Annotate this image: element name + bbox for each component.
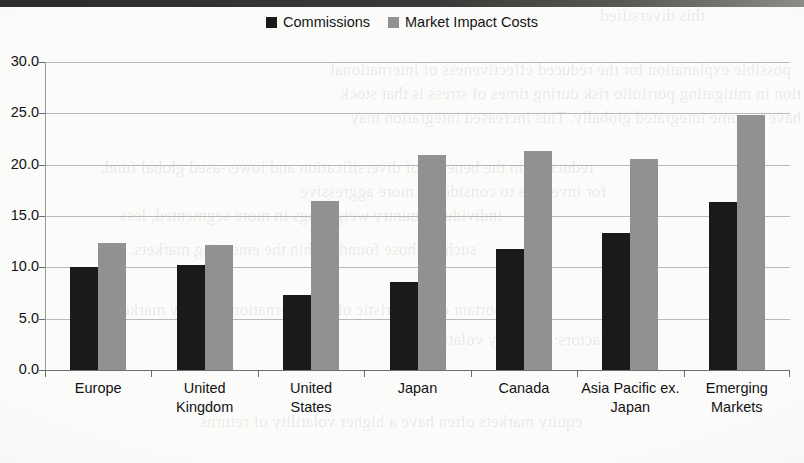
x-axis-labels: EuropeUnitedKingdomUnitedStatesJapanCana… (45, 379, 790, 439)
x-axis-tick (789, 370, 790, 377)
x-axis-category-label: EmergingMarkets (684, 379, 790, 417)
bar (709, 202, 737, 370)
x-axis-label-line: Europe (45, 379, 151, 398)
bar (390, 282, 418, 370)
x-axis-label-line: United (258, 379, 364, 398)
y-axis-tick-label: 15.0 (0, 207, 39, 223)
legend-label-commissions: Commissions (283, 14, 370, 30)
chart-legend: Commissions Market Impact Costs (0, 14, 804, 30)
x-axis-tick (45, 370, 46, 377)
legend-item-market-impact-costs: Market Impact Costs (388, 14, 538, 30)
x-axis-label-line: States (258, 398, 364, 417)
legend-swatch-commissions (266, 17, 277, 28)
y-axis-tick-label: 30.0 (0, 53, 39, 69)
bar (418, 155, 446, 370)
bar (524, 151, 552, 370)
x-axis-label-line: Emerging (684, 379, 790, 398)
bar (737, 115, 765, 370)
x-axis-ticks (45, 370, 790, 378)
x-axis-tick (151, 370, 152, 377)
bar (70, 267, 98, 370)
x-axis-category-label: UnitedKingdom (151, 379, 257, 417)
chart-page: this diversified possible explanation fo… (0, 0, 804, 463)
x-axis-tick (471, 370, 472, 377)
bar (311, 201, 339, 370)
x-axis-label-line: Kingdom (151, 398, 257, 417)
x-axis-category-label: Canada (471, 379, 577, 398)
x-axis-label-line: United (151, 379, 257, 398)
bar (496, 249, 524, 370)
y-axis-tick-label: 20.0 (0, 156, 39, 172)
scan-edge-bar (0, 0, 804, 7)
y-axis-tick-label: 10.0 (0, 258, 39, 274)
x-axis-category-label: Europe (45, 379, 151, 398)
x-axis-tick (364, 370, 365, 377)
bar (283, 295, 311, 370)
legend-label-market-impact-costs: Market Impact Costs (405, 14, 538, 30)
x-axis-category-label: UnitedStates (258, 379, 364, 417)
bar (602, 233, 630, 370)
x-axis-category-label: Japan (364, 379, 470, 398)
x-axis-label-line: Japan (364, 379, 470, 398)
x-axis-tick (258, 370, 259, 377)
x-axis-tick (577, 370, 578, 377)
x-axis-label-line: Canada (471, 379, 577, 398)
y-axis-tick-label: 5.0 (0, 310, 39, 326)
bar (98, 243, 126, 370)
x-axis-tick (684, 370, 685, 377)
x-axis-label-line: Asia Pacific ex. (577, 379, 683, 398)
x-axis-label-line: Markets (684, 398, 790, 417)
x-axis-category-label: Asia Pacific ex.Japan (577, 379, 683, 417)
x-axis-label-line: Japan (577, 398, 683, 417)
y-axis-tick-label: 0.0 (0, 361, 39, 377)
bar (177, 265, 205, 370)
bar-series-layer (45, 62, 790, 370)
bar (205, 245, 233, 370)
legend-swatch-market-impact-costs (388, 17, 399, 28)
bar (630, 159, 658, 370)
legend-item-commissions: Commissions (266, 14, 370, 30)
y-axis-tick-label: 25.0 (0, 104, 39, 120)
